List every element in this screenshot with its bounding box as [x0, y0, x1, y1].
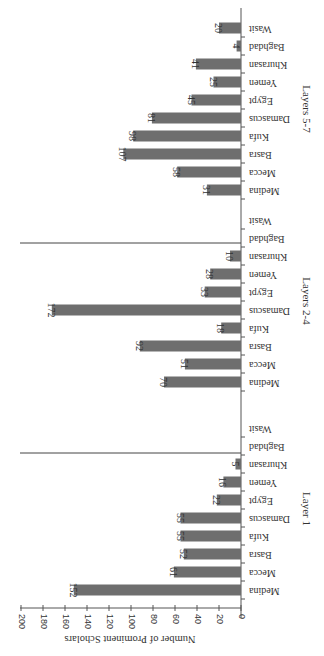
category-label: Damascus: [249, 514, 290, 525]
value-label: 172: [46, 303, 57, 318]
bar-chart: 020406080100120140160180200 Number of Pr…: [0, 0, 324, 656]
bar: [52, 305, 241, 316]
bar: [181, 531, 242, 542]
group-label: Layers 2-4: [301, 277, 313, 325]
bar: [192, 95, 242, 106]
category-label: Khurasan: [249, 60, 287, 71]
category-label: Kufa: [248, 132, 269, 143]
value-label: 31: [201, 185, 212, 195]
value-tick-label: 120: [105, 614, 115, 629]
bar: [123, 149, 241, 160]
value-tick-label: 0: [237, 614, 247, 619]
value-axis-title: Number of Prominent Scholars: [65, 634, 196, 645]
category-label: Medina: [248, 378, 279, 389]
value-label: 152: [68, 583, 79, 598]
value-label: 52: [178, 549, 189, 559]
category-label: Egypt: [249, 496, 273, 507]
value-label: 16: [217, 477, 228, 487]
value-label: 81: [146, 113, 157, 123]
value-label: 18: [215, 323, 226, 333]
value-tick-label: 100: [127, 614, 137, 629]
value-tick-label: 140: [83, 614, 93, 629]
category-label: Yemen: [249, 78, 277, 89]
category-label: Mecca: [248, 568, 275, 579]
category-label: Medina: [248, 586, 279, 597]
category-label: Basra: [248, 150, 271, 161]
category-label: Kufa: [248, 324, 269, 335]
value-label: 70: [158, 377, 169, 387]
value-label: 55: [175, 531, 186, 541]
category-label: Baghdad: [249, 442, 285, 453]
category-label: Basra: [248, 342, 271, 353]
value-label: 10: [224, 251, 235, 261]
category-label: Mecca: [248, 168, 275, 179]
category-label: Baghdad: [249, 234, 285, 245]
value-tick-label: 40: [193, 614, 203, 624]
bar: [74, 585, 241, 596]
value-tick-label: 180: [39, 614, 49, 629]
category-label: Khurasan: [249, 460, 287, 471]
category-label: Damascus: [249, 306, 290, 317]
value-label: 28: [204, 269, 215, 279]
value-label: 33: [199, 287, 210, 297]
value-label: 45: [186, 95, 197, 105]
category-label: Medina: [248, 186, 279, 197]
category-label: Basra: [248, 550, 271, 561]
bar: [181, 513, 242, 524]
value-label: 51: [179, 359, 190, 369]
value-tick-label: 160: [61, 614, 71, 629]
bar: [140, 341, 241, 352]
bar: [152, 113, 241, 124]
category-label: Wasit: [249, 216, 272, 227]
value-tick-label: 80: [149, 614, 159, 624]
category-label: Baghdad: [249, 42, 285, 53]
value-label: 41: [190, 59, 201, 69]
category-label: Kufa: [248, 532, 269, 543]
value-label: 58: [171, 167, 182, 177]
bar: [174, 567, 241, 578]
bar: [164, 377, 241, 388]
category-label: Yemen: [249, 270, 277, 281]
bar: [184, 549, 241, 560]
category-label: Wasit: [249, 24, 272, 35]
category-label: Egypt: [249, 96, 273, 107]
bars: [52, 23, 241, 596]
value-label: 55: [175, 513, 186, 523]
value-label: 22: [211, 495, 222, 505]
category-label: Wasit: [249, 424, 272, 435]
value-tick-label: 200: [17, 614, 27, 629]
category-label: Damascus: [249, 114, 290, 125]
bar: [177, 167, 241, 178]
value-label: 92: [134, 341, 145, 351]
value-label: 25: [208, 77, 219, 87]
value-label: 5: [230, 462, 241, 467]
value-label: 61: [168, 567, 179, 577]
group-label: Layer 1: [301, 492, 313, 526]
value-label: 4: [231, 44, 242, 49]
value-label: 98: [127, 131, 138, 141]
value-tick-label: 20: [215, 614, 225, 624]
category-label: Egypt: [249, 288, 273, 299]
category-label: Khurasan: [249, 252, 287, 263]
category-label: Mecca: [248, 360, 275, 371]
value-label: 20: [213, 23, 224, 33]
bar: [133, 131, 241, 142]
bar: [196, 59, 241, 70]
category-label: Yemen: [249, 478, 277, 489]
bar: [185, 359, 241, 370]
group-label: Layers 5-7: [301, 85, 313, 133]
value-tick-label: 60: [171, 614, 181, 624]
value-label: 107: [117, 147, 128, 162]
